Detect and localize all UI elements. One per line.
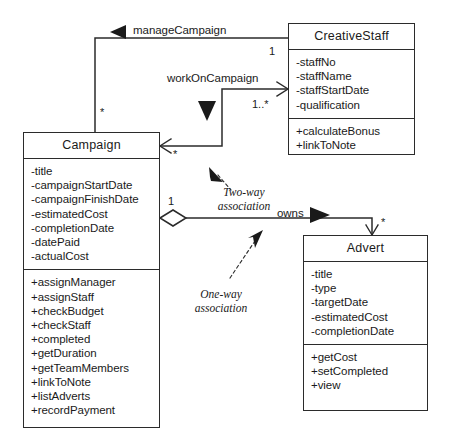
class-name-advert: Advert bbox=[304, 236, 427, 261]
attributes-compartment-campaign: -title -campaignStartDate -campaignFinis… bbox=[24, 159, 159, 269]
class-name-campaign: Campaign bbox=[24, 133, 159, 158]
operation: +view bbox=[311, 378, 427, 392]
operation: +getCost bbox=[311, 350, 427, 364]
operation: +assignStaff bbox=[31, 290, 159, 304]
aggregation-diamond bbox=[160, 210, 186, 226]
attribute: -actualCost bbox=[31, 249, 159, 263]
operation: +linkToNote bbox=[296, 138, 414, 152]
operations-compartment-advert: +getCost +setCompleted +view bbox=[304, 345, 427, 399]
attribute: -targetDate bbox=[311, 295, 427, 309]
class-box-advert[interactable]: Advert -title -type -targetDate -estimat… bbox=[303, 235, 428, 411]
attribute: -staffStartDate bbox=[296, 83, 414, 97]
operation: +getDuration bbox=[31, 346, 159, 360]
operation: +checkBudget bbox=[31, 304, 159, 318]
attribute: -staffName bbox=[296, 69, 414, 83]
operation: +recordPayment bbox=[31, 403, 159, 417]
attribute: -estimatedCost bbox=[31, 207, 159, 221]
attributes-compartment-advert: -title -type -targetDate -estimatedCost … bbox=[304, 262, 427, 344]
class-box-creativestaff[interactable]: CreativeStaff -staffNo -staffName -staff… bbox=[288, 23, 415, 155]
association-label-work-on-campaign: workOnCampaign bbox=[167, 72, 258, 84]
attribute: -qualification bbox=[296, 98, 414, 112]
attribute: -completionDate bbox=[311, 324, 427, 338]
multiplicity-manage-campaign-target: * bbox=[100, 106, 104, 118]
operation: +listAdverts bbox=[31, 389, 159, 403]
attribute: -type bbox=[311, 281, 427, 295]
annotation-one-way-association: One-way association bbox=[179, 288, 263, 315]
one-way-note-leader bbox=[230, 238, 257, 278]
annotation-line-1: Two-way bbox=[202, 186, 286, 200]
attribute: -staffNo bbox=[296, 55, 414, 69]
attributes-compartment-creativestaff: -staffNo -staffName -staffStartDate -qua… bbox=[289, 50, 414, 118]
operations-compartment-campaign: +assignManager +assignStaff +checkBudget… bbox=[24, 270, 159, 423]
attribute: -campaignFinishDate bbox=[31, 192, 159, 206]
attribute: -title bbox=[31, 164, 159, 178]
attribute: -campaignStartDate bbox=[31, 178, 159, 192]
work-on-campaign-direction-triangle bbox=[198, 101, 216, 121]
manage-campaign-line bbox=[95, 38, 288, 132]
attribute: -datePaid bbox=[31, 235, 159, 249]
annotation-two-way-association: Two-way association bbox=[202, 186, 286, 213]
class-box-campaign[interactable]: Campaign -title -campaignStartDate -camp… bbox=[23, 132, 160, 428]
operation: +completed bbox=[31, 332, 159, 346]
two-way-note-arrowhead bbox=[209, 167, 223, 182]
operation: +calculateBonus bbox=[296, 124, 414, 138]
multiplicity-manage-campaign-source: 1 bbox=[269, 45, 275, 57]
multiplicity-owns-target: * bbox=[381, 216, 385, 228]
operation: +checkStaff bbox=[31, 318, 159, 332]
operations-compartment-creativestaff: +calculateBonus +linkToNote bbox=[289, 119, 414, 158]
owns-line bbox=[186, 218, 372, 235]
attribute: -completionDate bbox=[31, 221, 159, 235]
operation: +assignManager bbox=[31, 275, 159, 289]
one-way-note-arrowhead bbox=[248, 230, 263, 248]
operation: +setCompleted bbox=[311, 364, 427, 378]
multiplicity-owns-source: 1 bbox=[168, 195, 174, 207]
annotation-line-2: association bbox=[179, 302, 263, 316]
multiplicity-work-on-campaign-target: 1..* bbox=[252, 98, 269, 110]
uml-class-diagram: CreativeStaff -staffNo -staffName -staff… bbox=[0, 0, 452, 445]
operation: +linkToNote bbox=[31, 375, 159, 389]
operation: +getTeamMembers bbox=[31, 361, 159, 375]
annotation-line-2: association bbox=[202, 200, 286, 214]
association-label-manage-campaign: manageCampaign bbox=[133, 24, 226, 36]
owns-direction-triangle bbox=[310, 207, 330, 223]
manage-campaign-direction-triangle bbox=[110, 25, 126, 39]
attribute: -estimatedCost bbox=[311, 310, 427, 324]
attribute: -title bbox=[311, 267, 427, 281]
multiplicity-work-on-campaign-source: * bbox=[173, 148, 177, 160]
class-name-creativestaff: CreativeStaff bbox=[289, 24, 414, 49]
annotation-line-1: One-way bbox=[179, 288, 263, 302]
